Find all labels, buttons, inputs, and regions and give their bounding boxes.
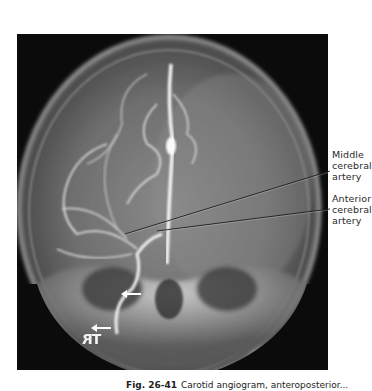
- angiogram-image: TR: [17, 34, 328, 370]
- label-line: cerebral: [332, 204, 372, 215]
- skull-xray-graphic: [17, 34, 328, 370]
- label-line: Middle: [332, 149, 372, 160]
- figure-number: Fig. 26-41: [126, 380, 177, 390]
- caption-text: Carotid angiogram, anteroposterior...: [181, 380, 348, 390]
- label-anterior-cerebral-artery: Anterior cerebral artery: [332, 193, 372, 226]
- label-line: artery: [332, 215, 372, 226]
- label-line: cerebral: [332, 160, 372, 171]
- label-middle-cerebral-artery: Middle cerebral artery: [332, 149, 372, 182]
- label-line: Anterior: [332, 193, 372, 204]
- figure-caption: Fig. 26-41Carotid angiogram, anteroposte…: [126, 379, 348, 391]
- side-marker: TR: [83, 331, 101, 347]
- label-line: artery: [332, 171, 372, 182]
